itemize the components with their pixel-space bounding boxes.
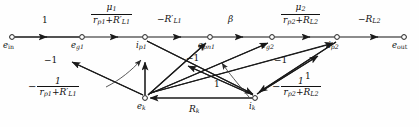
node-label-e-pn1: epn1 [198, 41, 215, 50]
fraction-neg-inv-1: 1 rp1+R′L1 [37, 76, 78, 99]
node-e-g1[interactable] [80, 35, 85, 40]
node-e-k[interactable] [143, 96, 148, 101]
node-e-out[interactable] [402, 35, 407, 40]
edge-label-one-ik: 1 [214, 80, 220, 89]
node-e-pn1[interactable] [208, 35, 213, 40]
edge-ek-epn1 [148, 43, 206, 95]
edge-ek-ip1-curve [106, 60, 141, 87]
node-i-p2[interactable] [335, 35, 340, 40]
edge-label-unity-in: 1 [42, 16, 48, 25]
signal-flow-graph-figure: ein eg1 ip1 epn1 eg2 ip2 eout ek ik 1 μ1… [0, 0, 419, 127]
node-label-i-p1: ip1 [136, 41, 147, 50]
node-label-e-in: ein [3, 41, 14, 50]
edge-label-one-ip2: 1 [305, 72, 311, 81]
node-label-e-out: eout [392, 41, 407, 50]
fraction-mu2: μ2 rp2+RL2 [281, 2, 320, 26]
flow-graph-canvas [0, 0, 419, 127]
node-i-k[interactable] [253, 96, 258, 101]
edge-label-mu1-gain: μ1 rp1+R′L1 [91, 2, 132, 26]
edge-label-beta: β [228, 15, 233, 24]
edge-ek-eg1 [72, 62, 143, 95]
node-label-e-g2: eg2 [261, 41, 274, 50]
edge-label-neg-inv-rp1: − 1 rp1+R′L1 [28, 76, 79, 99]
edge-label-mu2-gain: μ2 rp2+RL2 [281, 2, 320, 26]
node-label-i-k: ik [249, 102, 255, 111]
node-label-e-k: ek [137, 102, 146, 111]
edge-label-neg1-ek-eg1: −1 [44, 56, 57, 65]
edge-label-Rk: Rk [189, 105, 200, 115]
edge-label-neg-RL1: −R′L1 [157, 15, 182, 25]
node-label-e-g1: eg1 [71, 41, 84, 50]
node-i-p1[interactable] [143, 35, 148, 40]
fraction-neg-inv-2: 1 rp2+RL2 [281, 76, 320, 99]
minus-sign-icon: − [28, 82, 37, 92]
node-e-in[interactable] [10, 35, 15, 40]
node-e-g2[interactable] [270, 35, 275, 40]
edge-label-neg1-ek-epn1: −1 [186, 54, 199, 63]
fraction-mu1: μ1 rp1+R′L1 [91, 2, 132, 26]
minus-sign-icon-2: − [272, 82, 281, 92]
edge-label-neg-RL2: −RL2 [358, 15, 381, 25]
edge-label-neg-inv-rp2: − 1 rp2+RL2 [272, 76, 321, 99]
edge-label-neg1-ik-eg2: −1 [274, 56, 287, 65]
node-label-i-p2: ip2 [328, 41, 339, 50]
